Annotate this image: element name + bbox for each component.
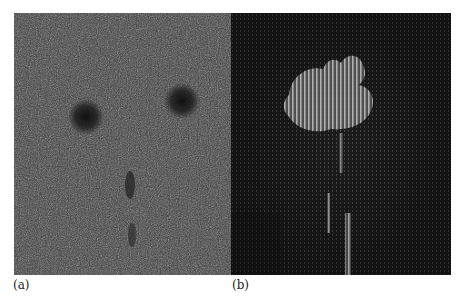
dark-spot-right — [164, 83, 200, 119]
stem-upper — [339, 133, 343, 173]
panel-a-image — [14, 13, 231, 275]
dark-corner — [231, 213, 281, 275]
dark-stem-lower — [128, 223, 136, 247]
dark-spot-left — [68, 99, 104, 135]
panel-b-label: (b) — [232, 278, 249, 292]
panel-a-label: (a) — [13, 278, 30, 292]
dark-stem — [125, 171, 135, 199]
panel-b-image — [231, 13, 451, 275]
noise-texture — [14, 13, 231, 275]
stem-right — [345, 213, 351, 275]
stem-left — [327, 193, 330, 233]
vector-field — [231, 13, 451, 275]
